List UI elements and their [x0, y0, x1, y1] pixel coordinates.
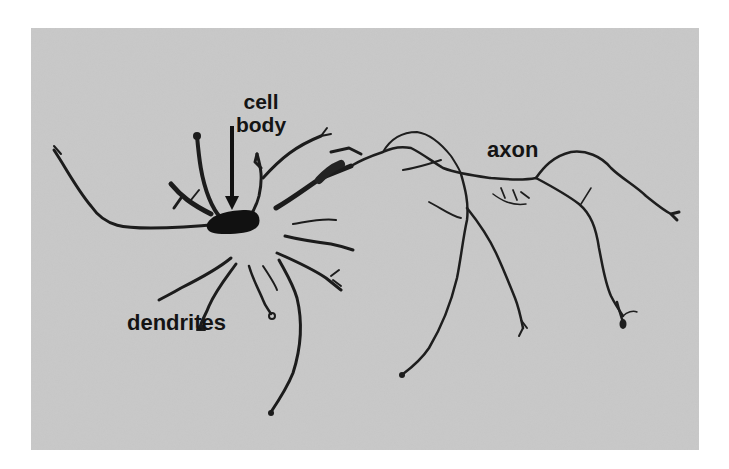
label-cell-body-line2: body	[221, 113, 301, 136]
label-cell-body: cell body	[221, 90, 301, 136]
label-axon: axon	[487, 139, 538, 161]
neuron-drawing	[31, 28, 699, 450]
neuron-micrograph: cell body axon dendrites	[31, 28, 699, 450]
label-cell-body-line1: cell	[221, 90, 301, 113]
label-dendrites: dendrites	[127, 312, 226, 334]
